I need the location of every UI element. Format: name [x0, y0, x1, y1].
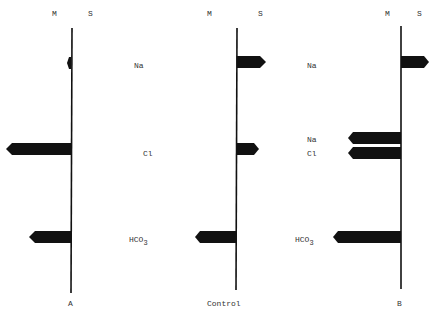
ion-label-b-na2: Na — [307, 136, 317, 144]
ion-label-na: Na — [134, 62, 144, 70]
arrow-a-na — [67, 57, 71, 69]
arrow-b-cl — [348, 147, 401, 159]
membrane-line-control — [236, 28, 237, 290]
ion-label-hco3: HCO3 — [129, 236, 148, 247]
panel-control-s-label: S — [258, 10, 263, 18]
panel-b-title: B — [397, 300, 402, 308]
ion-label-b-hco3: HCO3 — [295, 236, 314, 247]
panel-b-s-label: S — [417, 10, 422, 18]
panel-control-m-label: M — [207, 10, 212, 18]
arrow-control-na — [237, 56, 266, 68]
arrow-b-na-serosal — [401, 56, 429, 68]
panel-a-m-label: M — [52, 10, 57, 18]
arrow-b-na-mucosal — [348, 132, 401, 144]
ion-label-b-na: Na — [307, 62, 317, 70]
panel-a-s-label: S — [88, 10, 93, 18]
ion-label-b-cl: Cl — [307, 150, 317, 158]
panel-control-title: Control — [207, 300, 241, 308]
membrane-line-a — [71, 28, 72, 293]
flux-diagram — [0, 0, 438, 314]
arrow-b-hco3 — [333, 231, 401, 243]
arrow-control-hco3 — [195, 231, 237, 243]
ion-label-cl: Cl — [143, 150, 153, 158]
arrow-control-cl — [237, 143, 259, 155]
arrow-a-cl — [6, 143, 71, 155]
panel-a-title: A — [68, 300, 73, 308]
arrow-a-hco3 — [29, 231, 71, 243]
panel-b-m-label: M — [385, 10, 390, 18]
